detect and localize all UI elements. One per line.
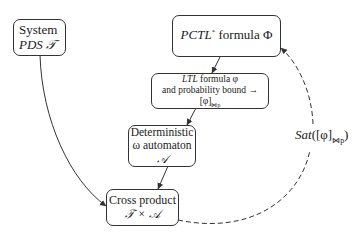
node-deterministic-automaton: Deterministic ω automaton 𝒜 [128,125,196,167]
cross-line2: 𝒯 × 𝒜 [107,208,178,222]
node-ltl-formula: LTL formula φ and probability bound → [φ… [151,73,269,109]
cross-line1: Cross product [107,194,178,208]
ltl-line1: LTL formula φ [152,74,268,85]
node-system: System PDS 𝒯 [13,19,66,56]
system-line1: System [19,23,65,38]
node-pctl-formula: PCTL* formula Φ [172,15,281,57]
deterministic-line2: ω automaton 𝒜 [129,139,195,165]
edge-ltl-to-deterministic [187,108,196,125]
pctl-label: PCTL* formula Φ [173,28,280,43]
edge-deterministic-to-cross [158,166,168,189]
edge-pctl-to-ltl [212,57,220,73]
edge-cross-to-pctl-dashed [178,150,310,224]
edge-sat-to-pctl-dashed [281,48,313,124]
edge-system-to-cross [40,55,106,206]
deterministic-line1: Deterministic [129,126,195,139]
ltl-line2: and probability bound → [φ]⋈p [152,85,268,108]
system-line2: PDS 𝒯 [19,38,65,53]
sat-edge-label: Sat([φ]⋈p) [295,127,348,145]
node-cross-product: Cross product 𝒯 × 𝒜 [106,189,179,226]
